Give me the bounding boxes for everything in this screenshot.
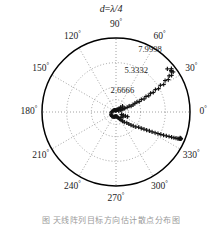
degree-symbol: ° — [197, 147, 200, 154]
angle-tick-value: 270 — [108, 193, 122, 203]
angle-tick-270: 270° — [108, 194, 125, 204]
degree-symbol: ° — [46, 147, 49, 154]
angle-tick-180: 180° — [21, 107, 38, 117]
degree-symbol: ° — [78, 179, 81, 186]
grid-spoke — [52, 75, 116, 112]
caption-fragment: 图 天线阵列目标方向估计散点分布图 — [0, 214, 222, 226]
angle-tick-30: 30° — [185, 64, 197, 74]
data-point — [151, 90, 155, 94]
angle-tick-value: 30 — [185, 63, 195, 73]
scatter-markers — [109, 67, 183, 141]
degree-symbol: ° — [35, 104, 38, 111]
data-point — [164, 134, 168, 138]
grid-spoke — [79, 112, 116, 176]
angle-tick-0: 0° — [200, 107, 207, 117]
data-point — [162, 82, 166, 86]
grid-spoke — [79, 48, 116, 112]
degree-symbol: ° — [78, 28, 81, 35]
angle-tick-300: 300° — [151, 182, 168, 192]
degree-symbol: ° — [120, 17, 123, 24]
angle-tick-90: 90° — [110, 20, 122, 30]
angle-tick-value: 180 — [21, 106, 35, 116]
data-point — [167, 134, 171, 138]
degree-symbol: ° — [163, 28, 166, 35]
degree-symbol: ° — [165, 179, 168, 186]
angle-tick-120: 120° — [64, 32, 81, 42]
degree-symbol: ° — [195, 60, 198, 67]
angle-tick-330: 330° — [183, 151, 200, 161]
data-point — [125, 115, 129, 119]
angle-tick-value: 60 — [154, 31, 164, 41]
angle-tick-210: 210° — [32, 151, 49, 161]
angle-tick-value: 240 — [64, 181, 78, 191]
angle-tick-value: 210 — [32, 150, 46, 160]
angle-tick-value: 300 — [151, 181, 165, 191]
angle-tick-value: 330 — [183, 150, 197, 160]
degree-symbol: ° — [204, 104, 207, 111]
radial-tick-7.9998: 7.9998 — [138, 45, 162, 54]
grid-spoke — [52, 112, 116, 149]
angle-tick-value: 90 — [110, 19, 120, 29]
angle-tick-value: 150 — [32, 63, 46, 73]
radial-tick-2.6666: 2.6666 — [111, 86, 135, 95]
polar-chart-figure: d=λ/4 0°30°60°90°120°150°180°210°240°270… — [0, 0, 222, 226]
angle-tick-240: 240° — [64, 182, 81, 192]
data-point — [165, 67, 169, 71]
data-point — [161, 133, 165, 137]
degree-symbol: ° — [122, 191, 125, 198]
radial-tick-5.3332: 5.3332 — [124, 66, 148, 75]
angle-tick-150: 150° — [32, 64, 49, 74]
data-point — [147, 129, 151, 133]
angle-tick-value: 120 — [64, 31, 78, 41]
angle-tick-60: 60° — [154, 32, 166, 42]
degree-symbol: ° — [46, 60, 49, 67]
